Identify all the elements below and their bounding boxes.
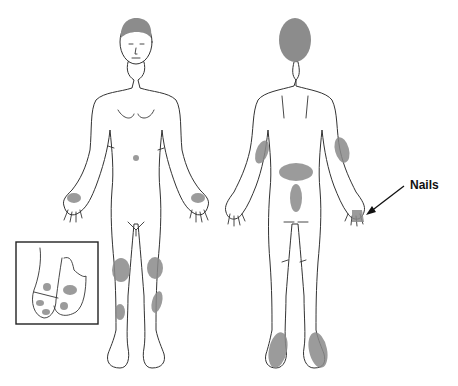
right-shin-lesion <box>115 304 125 320</box>
inset-lesion-2 <box>63 285 77 295</box>
right-knee-lesion <box>112 258 130 282</box>
gluteal-cleft-lesion <box>290 184 302 212</box>
umbilicus-lesion <box>133 155 139 161</box>
left-palm-lesion <box>191 193 205 203</box>
nails-arrow <box>370 186 404 212</box>
nails-arrowhead-icon <box>366 206 376 215</box>
inset-lesion-3 <box>36 300 44 306</box>
nails-label: Nails <box>410 178 439 192</box>
left-knee-lesion <box>147 257 163 279</box>
posterior-figure <box>225 18 364 369</box>
feet-inset <box>16 242 98 324</box>
lower-back-lesion <box>279 163 313 181</box>
right-palm-lesion <box>67 193 81 203</box>
posterior-head-hair <box>279 18 311 62</box>
inset-lesion-4 <box>42 309 50 315</box>
inset-lesion-5 <box>60 302 68 310</box>
posterior-body-outline <box>225 62 364 368</box>
nail-lesions <box>352 210 364 222</box>
inset-lesion-1 <box>43 283 51 291</box>
anatomy-diagram <box>0 0 458 386</box>
